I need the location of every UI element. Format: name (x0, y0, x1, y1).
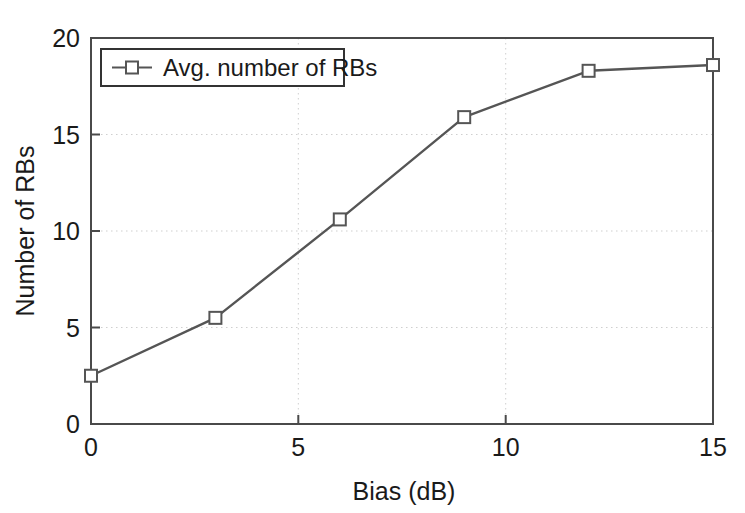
data-point-marker (85, 370, 97, 382)
chart-legend[interactable]: Avg. number of RBs (101, 49, 377, 86)
y-tick-label-0: 0 (66, 410, 80, 438)
data-point-marker (458, 111, 470, 123)
chart-figure: 0 5 10 15 20 0 5 10 15 Bias (dB) Number … (0, 0, 745, 513)
x-tick-label-5: 5 (291, 433, 305, 461)
data-point-marker (583, 65, 595, 77)
line-chart-svg: 0 5 10 15 20 0 5 10 15 Bias (dB) Number … (0, 0, 745, 513)
y-tick-label-5: 5 (66, 314, 80, 342)
data-point-marker (334, 213, 346, 225)
x-tick-label-0: 0 (84, 433, 98, 461)
square-open-marker-icon (126, 62, 138, 74)
y-axis-title: Number of RBs (11, 146, 39, 317)
data-point-marker (707, 59, 719, 71)
legend-item-label: Avg. number of RBs (163, 54, 377, 81)
x-axis-title: Bias (dB) (353, 477, 456, 505)
x-tick-label-15: 15 (699, 433, 727, 461)
x-tick-label-10: 10 (492, 433, 520, 461)
y-tick-label-15: 15 (52, 121, 80, 149)
y-tick-label-10: 10 (52, 217, 80, 245)
y-tick-label-20: 20 (52, 24, 80, 52)
data-point-marker (209, 312, 221, 324)
